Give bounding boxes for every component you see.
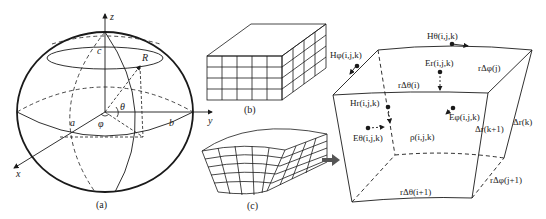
x-axis-label: x bbox=[15, 168, 21, 179]
E-theta-label: Eθ(i,j,k) bbox=[353, 133, 383, 143]
panel-a-ellipsoid bbox=[14, 14, 212, 192]
diagram-canvas: z y x c R θ φ a b (a) (b) bbox=[0, 0, 546, 219]
dr-k1-label: Δr(k+1) bbox=[475, 124, 504, 134]
panel-b-caption: (b) bbox=[244, 104, 256, 116]
r-dphi-j1-label: rΔφ(j+1) bbox=[490, 175, 522, 185]
panel-c-curved-block bbox=[202, 129, 327, 195]
r-dtheta-i-label: rΔθ(i) bbox=[398, 80, 420, 90]
panel-c-caption: (c) bbox=[247, 200, 258, 212]
a-label: a bbox=[70, 117, 75, 128]
phi-label: φ bbox=[98, 118, 104, 129]
b-label: b bbox=[169, 117, 174, 128]
rho-label: ρ(i,j,k) bbox=[410, 132, 435, 142]
y-axis-label: y bbox=[207, 115, 213, 126]
H-theta-label: Hθ(i,j,k) bbox=[427, 31, 458, 41]
R-label: R bbox=[141, 52, 148, 63]
panel-a-caption: (a) bbox=[96, 199, 107, 211]
r-dphi-j-label: rΔφ(j) bbox=[478, 63, 500, 73]
r-dtheta-i1-label: rΔθ(i+1) bbox=[400, 187, 431, 197]
panel-b-grid-block bbox=[207, 24, 326, 100]
H-phi-label: Hφ(i,j,k) bbox=[330, 50, 362, 60]
theta-label: θ bbox=[120, 101, 125, 112]
c-label: c bbox=[97, 45, 102, 56]
x-axis bbox=[14, 112, 105, 168]
meridian-back bbox=[70, 32, 105, 192]
H-r-label: Hr(i,j,k) bbox=[350, 98, 380, 108]
E-phi-label: Eφ(i,j,k) bbox=[449, 112, 480, 122]
E-r-label: Er(i,j,k) bbox=[425, 58, 454, 68]
z-axis-label: z bbox=[109, 11, 114, 22]
dr-k-label: Δr(k) bbox=[513, 117, 532, 127]
